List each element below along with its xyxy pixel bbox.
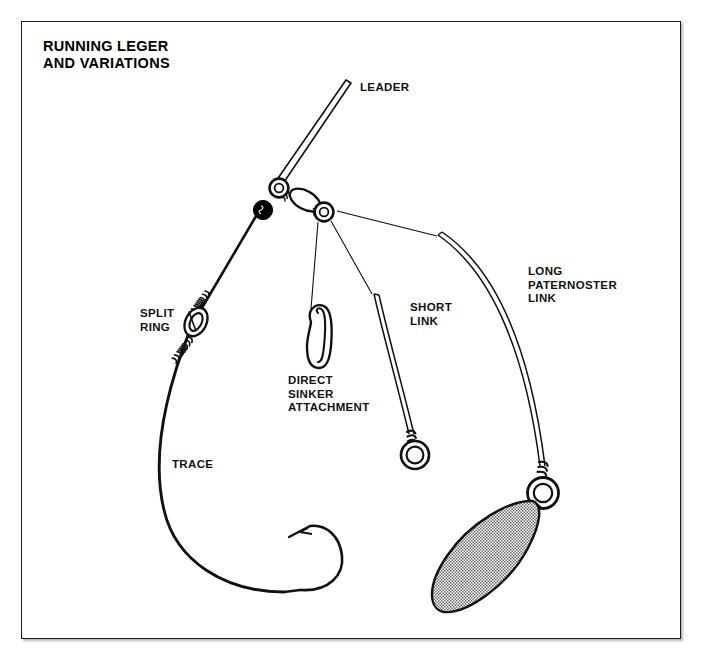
fishing-rig-diagram <box>0 0 702 654</box>
pointer-to-long-link <box>337 211 437 236</box>
label-split-ring: SPLIT RING <box>140 307 174 334</box>
pointer-to-direct-sinker <box>311 222 318 309</box>
split-ring <box>171 289 212 366</box>
label-short-link: SHORT LINK <box>410 301 452 328</box>
label-direct-sinker-attachment: DIRECT SINKER ATTACHMENT <box>288 374 370 415</box>
label-trace: TRACE <box>172 458 213 472</box>
label-leader: LEADER <box>360 81 409 95</box>
direct-sinker-attachment-clip <box>307 305 332 368</box>
page-canvas: RUNNING LEGER AND VARIATIONS LEADER SPLI… <box>0 0 702 654</box>
leader-line <box>274 80 351 188</box>
pointer-to-short-link <box>331 221 372 294</box>
swivel-assembly <box>253 179 333 222</box>
page-title: RUNNING LEGER AND VARIATIONS <box>43 38 170 72</box>
sinker-weight <box>432 501 541 612</box>
trace-line <box>159 206 300 592</box>
fishing-hook <box>289 526 342 590</box>
label-long-paternoster-link: LONG PATERNOSTER LINK <box>528 265 617 306</box>
